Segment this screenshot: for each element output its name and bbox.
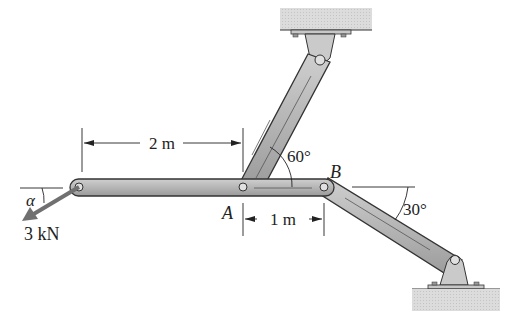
angle-60-label: 60° [287, 147, 311, 166]
bottom-pin [451, 256, 460, 265]
pin-a [239, 183, 247, 191]
member-horizontal-bar [70, 179, 334, 196]
force-3kn: α 3 kN [20, 187, 79, 244]
member-lower-strut [318, 178, 462, 278]
dimension-1m: 1 m [243, 203, 324, 236]
point-b-label: B [330, 162, 341, 182]
top-bolt-left [293, 34, 298, 37]
angle-alpha-label: α [26, 191, 36, 210]
point-a-label: A [221, 203, 234, 223]
top-ground-support [280, 8, 372, 64]
member-upper-strut [236, 54, 330, 190]
bottom-ground [412, 289, 500, 311]
dimension-2m-label: 2 m [149, 134, 175, 153]
force-arrow-shaft [32, 187, 79, 215]
top-ground [280, 8, 372, 30]
top-pin [315, 55, 325, 65]
pin-b [320, 183, 328, 191]
angle-30-label: 30° [403, 200, 427, 219]
bottom-ground-support [412, 255, 500, 311]
mechanism-diagram: 2 m 1 m 60° 30° A B α 3 kN [0, 0, 521, 317]
force-label: 3 kN [24, 224, 60, 244]
dimension-1m-label: 1 m [270, 210, 296, 229]
dimension-2m: 2 m [82, 128, 243, 172]
top-bolt-right [341, 34, 346, 37]
top-base-plate [291, 30, 351, 34]
